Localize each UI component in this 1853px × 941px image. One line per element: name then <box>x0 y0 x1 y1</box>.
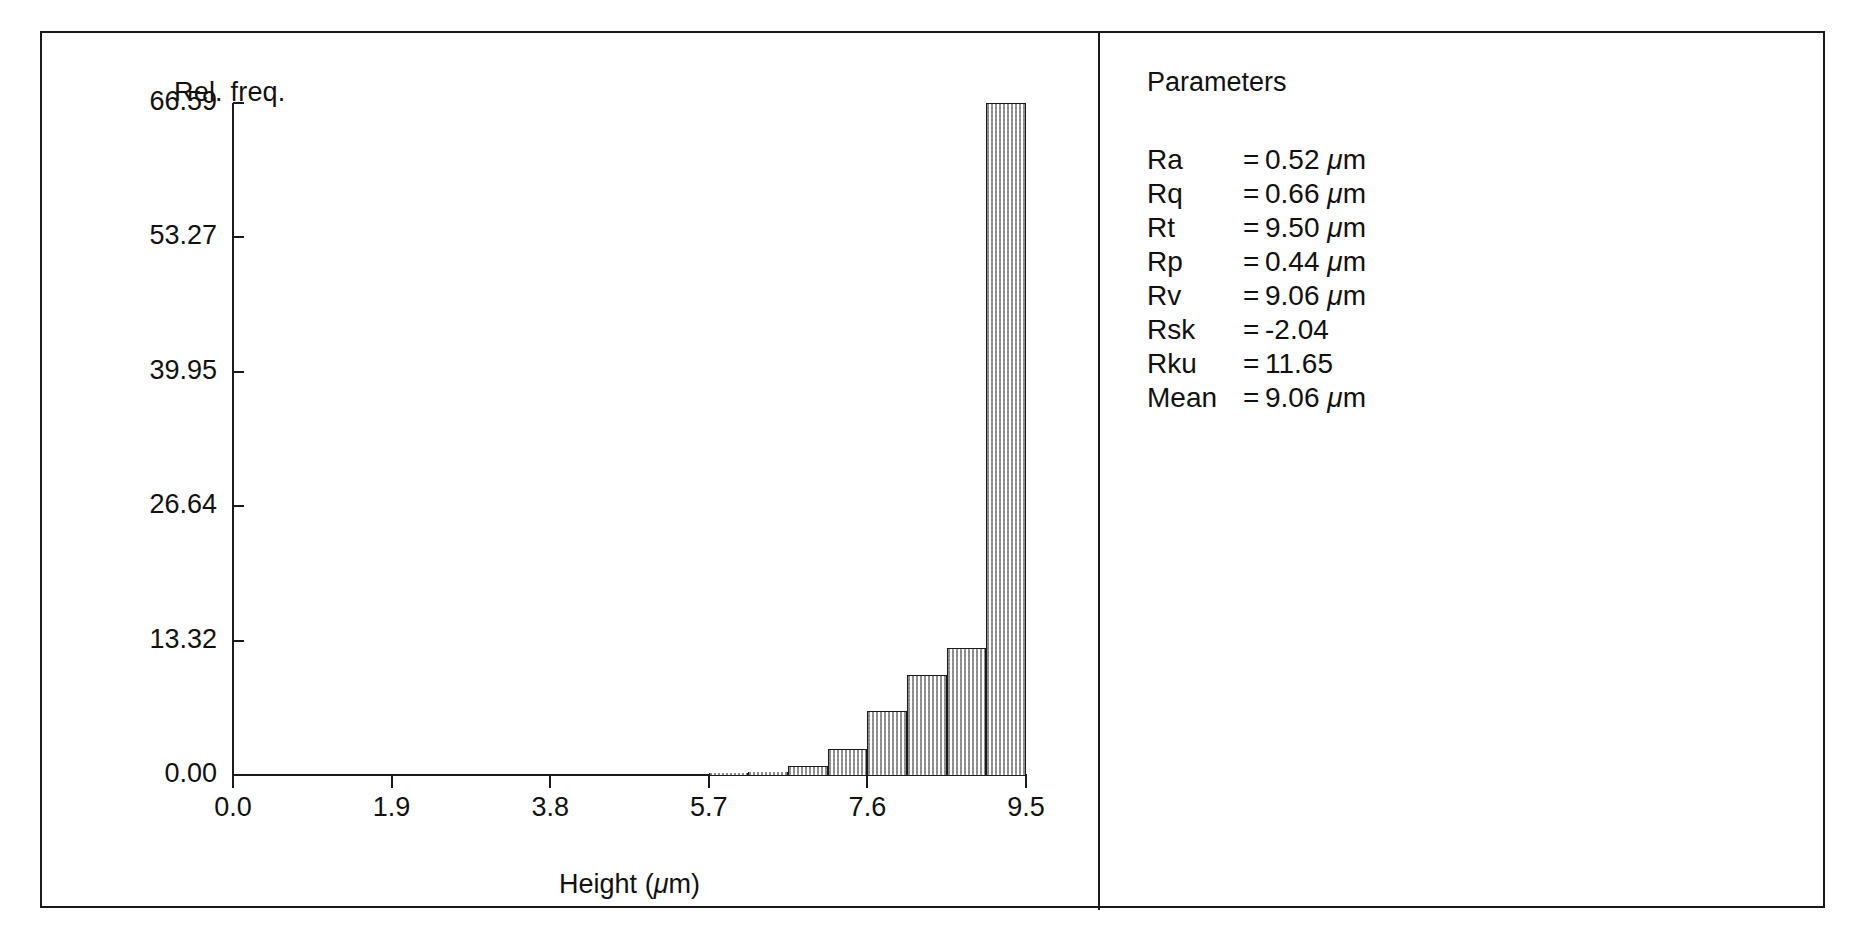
histogram-bar <box>907 675 947 775</box>
y-tick-label: 26.64 <box>149 489 217 520</box>
y-tick-label: 13.32 <box>149 624 217 655</box>
parameter-unit: m <box>1343 280 1366 311</box>
histogram-bar <box>828 749 868 775</box>
parameter-equals: = <box>1243 143 1265 177</box>
micro-symbol: μ <box>1327 246 1342 277</box>
x-tick-mark <box>232 775 234 788</box>
parameter-unit: m <box>1343 178 1366 209</box>
y-tick-label: 53.27 <box>149 220 217 251</box>
parameter-name: Rku <box>1147 347 1243 381</box>
parameter-unit: m <box>1343 382 1366 413</box>
parameter-equals: = <box>1243 245 1265 279</box>
parameter-value: 9.06 μm <box>1265 381 1366 415</box>
x-tick-mark <box>1025 775 1027 788</box>
histogram-bar <box>709 773 749 775</box>
histogram-bar <box>947 648 987 775</box>
parameter-unit: m <box>1343 246 1366 277</box>
parameter-value: 0.44 μm <box>1265 245 1366 279</box>
parameter-value: 9.06 μm <box>1265 279 1366 313</box>
parameter-name: Rq <box>1147 177 1243 211</box>
parameter-value: 9.50 μm <box>1265 211 1366 245</box>
x-tick-label: 0.0 <box>183 792 283 823</box>
parameter-value: 0.52 μm <box>1265 143 1366 177</box>
micro-symbol: μ <box>654 869 669 899</box>
histogram-bar <box>788 766 828 775</box>
parameter-name: Ra <box>1147 143 1243 177</box>
parameter-equals: = <box>1243 279 1265 313</box>
parameter-row: Rt=9.50 μm <box>1147 211 1366 245</box>
histogram-bar <box>748 772 788 775</box>
micro-symbol: μ <box>1327 178 1342 209</box>
parameter-row: Rsk=-2.04 <box>1147 313 1366 347</box>
parameters-list: Ra=0.52 μmRq=0.66 μmRt=9.50 μmRp=0.44 μm… <box>1147 143 1366 415</box>
parameter-equals: = <box>1243 177 1265 211</box>
y-tick-label: 39.95 <box>149 355 217 386</box>
histogram-bar <box>867 711 907 775</box>
parameter-equals: = <box>1243 211 1265 245</box>
micro-symbol: μ <box>1327 212 1342 243</box>
y-tick-label: 66.59 <box>149 86 217 117</box>
parameter-name: Mean <box>1147 381 1243 415</box>
histogram-bars <box>233 103 1026 775</box>
parameter-value: 0.66 μm <box>1265 177 1366 211</box>
plot-area: 0.0013.3226.6439.9553.2766.59 0.01.93.85… <box>233 103 1026 775</box>
micro-symbol: μ <box>1327 144 1342 175</box>
parameter-value: -2.04 <box>1265 313 1329 347</box>
x-tick-mark <box>391 775 393 788</box>
parameter-equals: = <box>1243 381 1265 415</box>
figure-root: Rel. freq. 0.0013.3226.6439.9553.2766.59… <box>0 0 1853 941</box>
parameter-row: Ra=0.52 μm <box>1147 143 1366 177</box>
parameter-row: Mean=9.06 μm <box>1147 381 1366 415</box>
micro-symbol: μ <box>1327 382 1342 413</box>
x-axis-title: Height (μm) <box>233 869 1026 900</box>
x-tick-label: 9.5 <box>976 792 1076 823</box>
parameter-row: Rp=0.44 μm <box>1147 245 1366 279</box>
parameters-panel: Parameters Ra=0.52 μmRq=0.66 μmRt=9.50 μ… <box>1098 31 1825 908</box>
histogram-bar <box>986 103 1026 775</box>
x-tick-label: 7.6 <box>817 792 917 823</box>
x-axis-title-unit: m) <box>668 869 699 899</box>
parameter-row: Rku=11.65 <box>1147 347 1366 381</box>
x-tick-label: 1.9 <box>342 792 442 823</box>
parameter-equals: = <box>1243 347 1265 381</box>
micro-symbol: μ <box>1327 280 1342 311</box>
x-tick-label: 5.7 <box>659 792 759 823</box>
parameter-name: Rt <box>1147 211 1243 245</box>
y-tick-label: 0.00 <box>164 758 217 789</box>
x-tick-mark <box>708 775 710 788</box>
x-tick-mark <box>549 775 551 788</box>
x-tick-label: 3.8 <box>500 792 600 823</box>
parameters-title: Parameters <box>1147 67 1287 98</box>
parameter-value: 11.65 <box>1265 347 1333 381</box>
parameter-row: Rv=9.06 μm <box>1147 279 1366 313</box>
x-tick-mark <box>866 775 868 788</box>
parameter-name: Rp <box>1147 245 1243 279</box>
x-axis-title-text: Height ( <box>559 869 654 899</box>
parameter-row: Rq=0.66 μm <box>1147 177 1366 211</box>
parameter-name: Rsk <box>1147 313 1243 347</box>
parameter-equals: = <box>1243 313 1265 347</box>
parameter-unit: m <box>1343 212 1366 243</box>
histogram-panel: Rel. freq. 0.0013.3226.6439.9553.2766.59… <box>40 31 1098 908</box>
parameter-unit: m <box>1343 144 1366 175</box>
parameter-name: Rv <box>1147 279 1243 313</box>
